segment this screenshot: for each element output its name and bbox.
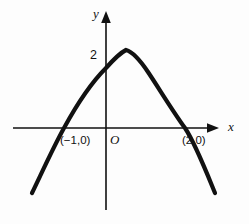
coordinate-plot xyxy=(0,0,249,224)
root-label-right: (2,0) xyxy=(182,134,206,146)
y-tick-label-2: 2 xyxy=(90,48,97,62)
y-axis-arrow-icon xyxy=(101,11,111,23)
x-axis-label: x xyxy=(228,119,234,135)
origin-label: O xyxy=(110,132,119,148)
parabola-figure: y x O 2 (−1,0) (2,0) xyxy=(0,0,249,224)
x-axis-arrow-icon xyxy=(207,123,219,133)
y-axis-label: y xyxy=(93,6,99,22)
root-label-left: (−1,0) xyxy=(60,134,90,146)
parabola-curve xyxy=(32,50,215,193)
